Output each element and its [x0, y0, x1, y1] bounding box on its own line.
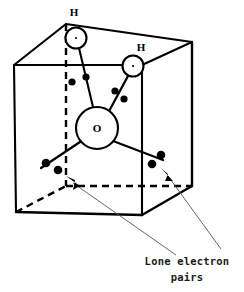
- atom-h2: H: [123, 41, 146, 77]
- bonding-dot-h2-b: [120, 95, 127, 102]
- cube-edge-bottom-right-diagonal: [142, 186, 192, 215]
- atom-o-label: O: [93, 122, 102, 134]
- bonding-dot-h1-a: [68, 78, 75, 85]
- lone-pair-left-dot-b: [54, 166, 63, 175]
- leader-line-left: [73, 183, 176, 255]
- water-molecule-diagram: H H O Lone electron pairs: [0, 0, 244, 292]
- caption-lone-electron-pairs: Lone electron pairs: [145, 255, 230, 283]
- cube-edge-front-left: [14, 65, 16, 212]
- atom-h2-nucleus-dot: [132, 65, 134, 67]
- bond-o-h2: [108, 76, 128, 113]
- bond-o-lone-pair-right: [113, 141, 163, 160]
- leader-arrowhead-right: [161, 168, 173, 181]
- bonding-dot-h2-a: [111, 87, 118, 94]
- atom-h2-label: H: [137, 41, 146, 53]
- lone-pair-right-dot-a: [148, 160, 157, 169]
- cube-edge-bottom-left-diagonal: [16, 186, 66, 212]
- leader-line-right: [168, 176, 221, 249]
- bonding-dot-h1-b: [82, 73, 89, 80]
- caption-line-1: Lone electron: [145, 255, 230, 267]
- caption-line-2: pairs: [171, 271, 204, 283]
- atom-h1-nucleus-dot: [75, 37, 77, 39]
- cube-edge-top-left-diagonal: [14, 24, 66, 65]
- cube-edge-top-right-diagonal: [142, 42, 192, 65]
- atom-h1-label: H: [70, 6, 79, 18]
- lone-pair-left-dot-a: [42, 159, 51, 168]
- cube-edge-front-bottom: [16, 212, 142, 215]
- annotation-leaders: [66, 168, 221, 255]
- atom-o: O: [76, 107, 118, 149]
- lone-pair-right-dot-b: [157, 151, 166, 160]
- diagram-canvas: H H O Lone electron pairs: [0, 0, 244, 292]
